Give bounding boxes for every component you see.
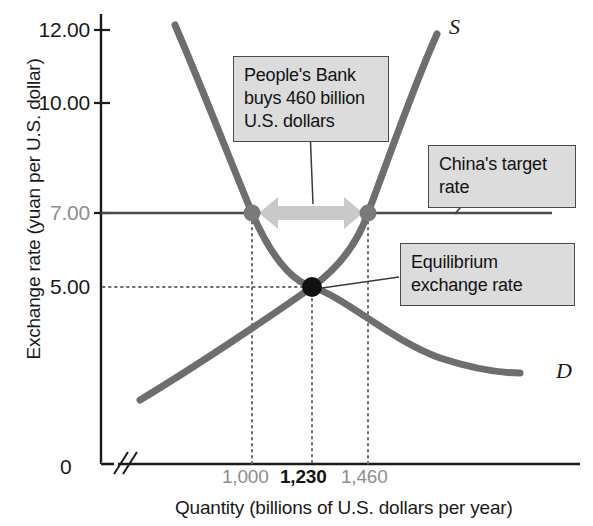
x-tick-label-1000: 1,000 bbox=[222, 466, 269, 488]
origin-label: 0 bbox=[60, 455, 72, 479]
callout-bank-line3: U.S. dollars bbox=[244, 110, 379, 133]
supply-at-target-marker bbox=[360, 205, 377, 222]
exchange-rate-chart-figure: 12.00 10.00 7.00 5.00 1,000 1,230 1,460 … bbox=[0, 0, 593, 526]
callout-bank-purchase: People's Bank buys 460 billion U.S. doll… bbox=[233, 56, 389, 142]
callout-equilibrium-line1: Equilibrium bbox=[411, 251, 565, 274]
callout-target-line2: rate bbox=[439, 176, 566, 199]
demand-at-target-marker bbox=[244, 205, 261, 222]
y-axis-title: Exchange rate (yuan per U.S. dollar) bbox=[23, 44, 45, 374]
bank-purchase-span-arrow bbox=[259, 197, 363, 229]
callout-bank-line2: buys 460 billion bbox=[244, 87, 379, 110]
equilibrium-callout-leader bbox=[322, 277, 399, 288]
x-tick-label-1230: 1,230 bbox=[280, 466, 327, 488]
callout-equilibrium-rate: Equilibrium exchange rate bbox=[400, 243, 575, 306]
x-axis-title: Quantity (billions of U.S. dollars per y… bbox=[175, 497, 513, 519]
equilibrium-point-marker bbox=[302, 277, 322, 297]
callout-china-target-rate: China's target rate bbox=[428, 145, 576, 208]
callout-equilibrium-line2: exchange rate bbox=[411, 274, 565, 297]
callout-target-line1: China's target bbox=[439, 153, 566, 176]
supply-curve-label: S bbox=[449, 14, 460, 40]
y-tick-label-12: 12.00 bbox=[24, 18, 90, 42]
demand-curve-label: D bbox=[556, 358, 572, 384]
x-tick-label-1460: 1,460 bbox=[341, 466, 388, 488]
callout-bank-line1: People's Bank bbox=[244, 64, 379, 87]
